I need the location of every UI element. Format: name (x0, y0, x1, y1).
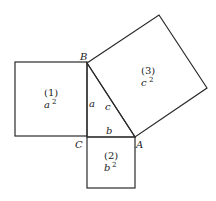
square-1-id: (1) (44, 87, 58, 98)
square-1-var: a (44, 99, 50, 110)
side-b-label: b (106, 125, 112, 136)
square-c (87, 15, 207, 137)
side-a-label: a (89, 98, 95, 109)
pythagorean-diagram: B C A a c b (1) a 2 (2) b 2 (3) c 2 (0, 0, 216, 201)
square-b (87, 137, 135, 188)
vertex-b-label: B (79, 51, 87, 62)
side-c-label: c (105, 101, 111, 112)
vertex-c-label: C (75, 139, 83, 150)
square-3-id: (3) (141, 65, 155, 76)
square-1-exp: 2 (52, 98, 56, 106)
square-3-exp: 2 (149, 76, 153, 84)
square-a (15, 62, 87, 136)
square-2-id: (2) (104, 150, 118, 161)
vertex-a-label: A (135, 139, 143, 150)
square-2-exp: 2 (112, 161, 116, 169)
square-2-var: b (104, 162, 110, 173)
square-3-var: c (141, 77, 147, 88)
